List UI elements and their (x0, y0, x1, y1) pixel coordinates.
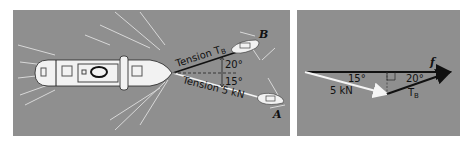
svg-text:15°: 15° (348, 73, 366, 84)
svg-text:TB: TB (407, 87, 419, 100)
svg-text:Tension TB: Tension TB (173, 42, 227, 71)
svg-text:A: A (272, 108, 282, 121)
right-angle-marker (387, 72, 395, 80)
force-triangle-diagram: f 15° 20° 5 kN TB (297, 10, 460, 136)
svg-text:20°: 20° (225, 59, 243, 70)
ship-towing-illustration: Tension TB Tension 5 kN 20° 15° B A (13, 10, 290, 136)
force-triangle-panel: f 15° 20° 5 kN TB (297, 10, 460, 136)
ship-towing-panel: Tension TB Tension 5 kN 20° 15° B A (13, 10, 290, 136)
svg-text:B: B (258, 28, 268, 41)
ship (35, 56, 172, 90)
svg-text:20°: 20° (406, 73, 424, 84)
tug-a (258, 93, 284, 104)
svg-text:5 kN: 5 kN (330, 85, 353, 96)
tug-b (232, 40, 260, 53)
svg-text:f: f (429, 56, 437, 69)
svg-text:15°: 15° (225, 76, 243, 87)
